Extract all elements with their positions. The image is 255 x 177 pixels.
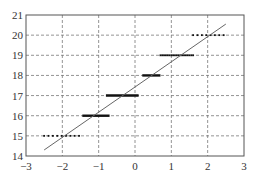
y-tick-label: 14 <box>12 150 24 162</box>
y-axis-ticks: 1415161718192021 <box>12 9 24 162</box>
x-axis-ticks: −3−2−10123 <box>20 160 247 172</box>
y-tick-label: 20 <box>12 29 24 41</box>
y-tick-label: 16 <box>12 110 24 122</box>
x-tick-label: −2 <box>56 160 68 172</box>
x-tick-label: 3 <box>241 160 247 172</box>
y-tick-label: 17 <box>12 90 24 102</box>
data-points <box>43 34 224 137</box>
x-tick-label: 0 <box>132 160 138 172</box>
x-tick-label: −1 <box>93 160 105 172</box>
chart: −3−2−10123 1415161718192021 <box>0 0 255 177</box>
y-tick-label: 21 <box>12 9 23 21</box>
y-tick-label: 18 <box>12 69 24 81</box>
y-tick-label: 15 <box>12 130 24 142</box>
point-cluster <box>43 135 80 137</box>
grid <box>26 15 244 156</box>
point-cluster <box>160 54 195 56</box>
x-tick-label: 2 <box>205 160 211 172</box>
y-tick-label: 19 <box>12 49 24 61</box>
x-tick-label: 1 <box>169 160 175 172</box>
